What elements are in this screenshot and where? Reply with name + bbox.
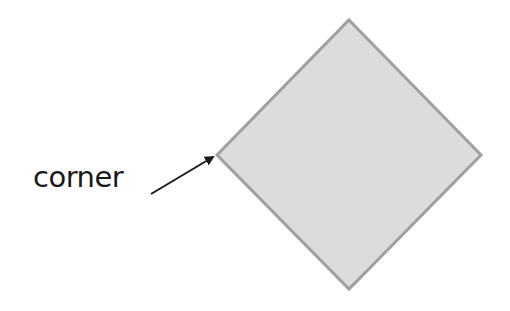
corner-label: corner (33, 160, 123, 194)
corner-arrow (151, 157, 213, 194)
diagram-canvas (0, 0, 510, 311)
diamond-shape (217, 20, 481, 289)
